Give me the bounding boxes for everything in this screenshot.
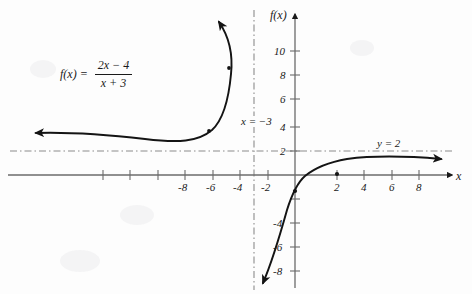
y-tick-label-2: 2 — [280, 146, 286, 157]
y-tick-label-neg4: -4 — [273, 218, 282, 229]
y-tick-label-4: 4 — [280, 122, 286, 133]
x-tick-label-2: 2 — [334, 182, 340, 193]
marker-y-intercept — [293, 189, 297, 193]
y-tick-label-neg8: -8 — [273, 266, 282, 277]
marker-mid-left — [207, 129, 211, 133]
x-tick-label-4: 4 — [361, 182, 367, 193]
curve-right-branch — [263, 157, 441, 283]
horizontal-asymptote-label: y = 2 — [375, 138, 402, 149]
y-tick-label-10: 10 — [274, 46, 285, 57]
formula-lhs: f(x) = — [60, 67, 88, 82]
formula-fraction: 2x − 4 x + 3 — [95, 58, 132, 91]
x-tick-label-6: 6 — [389, 182, 395, 193]
x-tick-label-neg8: -8 — [178, 182, 187, 193]
x-tick-label-neg6: -6 — [206, 182, 215, 193]
formula-denominator: x + 3 — [98, 75, 129, 91]
x-tick-label-neg2: -2 — [261, 182, 270, 193]
function-formula-label: f(x) = 2x − 4 x + 3 — [60, 58, 132, 91]
marker-upper-left — [227, 66, 231, 70]
y-axis-label: f(x) — [270, 9, 287, 21]
y-tick-label-neg6: -6 — [273, 242, 282, 253]
y-tick-label-6: 6 — [280, 94, 286, 105]
figure-canvas: f(x) = 2x − 4 x + 3 f(x) x x = −3 y = 2 … — [0, 0, 472, 294]
x-tick-label-neg4: -4 — [233, 182, 242, 193]
formula-numerator: 2x − 4 — [95, 58, 132, 74]
marker-x-intercept — [335, 172, 339, 176]
curve-point-markers — [207, 66, 339, 193]
x-axis-label: x — [456, 170, 461, 182]
x-tick-label-8: 8 — [416, 182, 422, 193]
vertical-asymptote-label: x = −3 — [239, 116, 274, 127]
y-tick-label-8: 8 — [280, 70, 286, 81]
